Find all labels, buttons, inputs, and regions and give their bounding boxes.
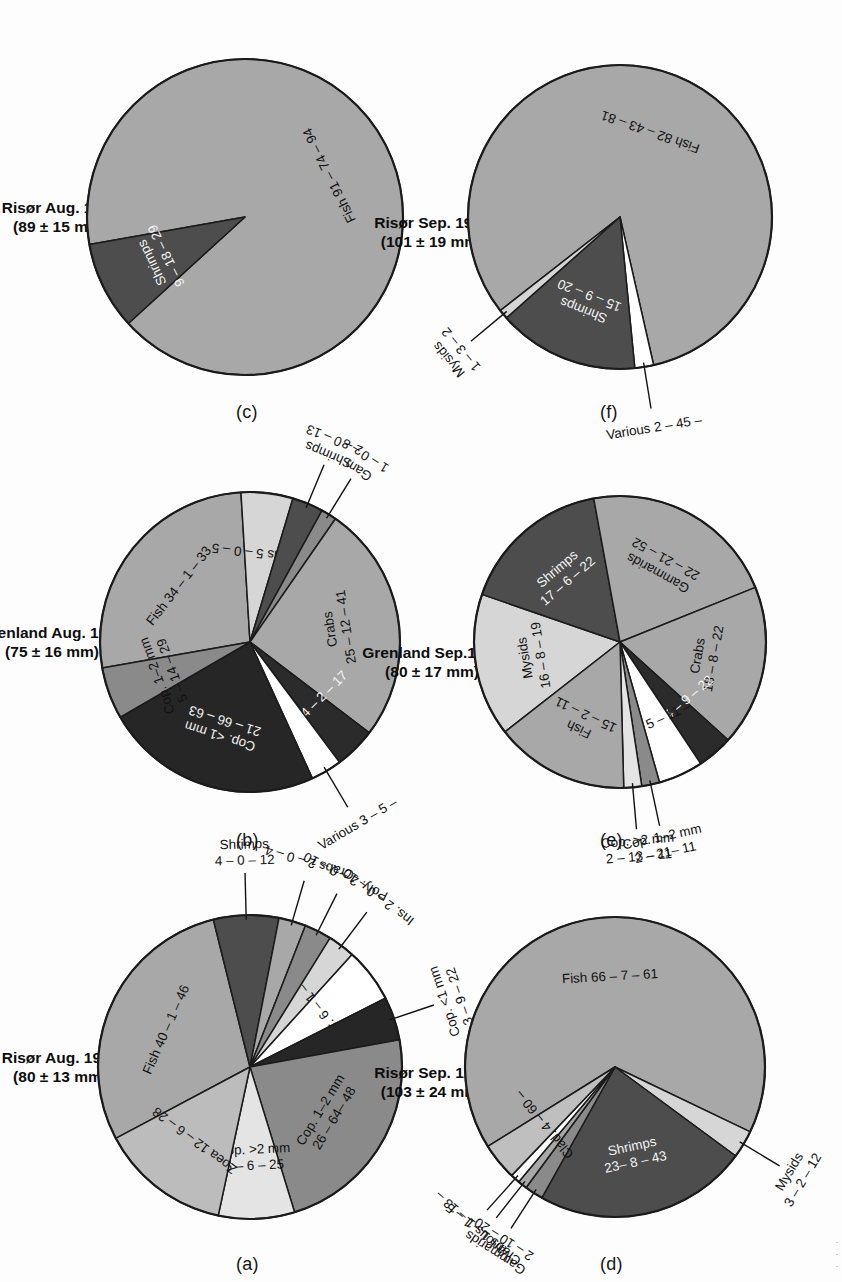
scan-artifact bbox=[836, 1266, 838, 1267]
panel-f: (f)Risør Sep. 1997 (101 ± 19 mm)Fish 82 … bbox=[0, 0, 842, 1282]
pie-f: Fish 82 – 43 – 81Various 2 – 45 –Shrimps… bbox=[353, 0, 842, 484]
pie-slice-label-group: Various 2 – 45 – bbox=[605, 412, 703, 442]
pie-leader-line bbox=[471, 311, 507, 341]
pie-leader-line bbox=[644, 363, 651, 409]
scan-artifact bbox=[836, 1254, 838, 1255]
pie-slice-label-group: Mysids1 – 3 – 2 bbox=[426, 325, 483, 385]
pie-slice-label: Various 2 – 45 – bbox=[605, 412, 703, 442]
scan-artifact bbox=[836, 1242, 838, 1243]
figure-page: (a)Risør Aug. 1996 (80 ± 13 mm)Fish 40 –… bbox=[0, 0, 842, 1282]
pie-chart-figure: (a)Risør Aug. 1996 (80 ± 13 mm)Fish 40 –… bbox=[0, 0, 842, 1282]
